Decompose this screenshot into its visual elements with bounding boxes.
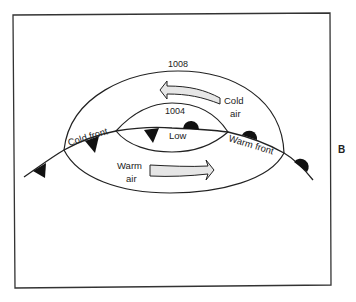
cold-front-triangle-icon xyxy=(144,128,159,143)
cold-air-label-line1: Cold xyxy=(224,95,244,106)
warm-front-semicircle-icon xyxy=(294,159,309,172)
warm-air-label-line1: Warm xyxy=(117,160,142,171)
cold-air-arrow-icon xyxy=(160,81,220,104)
isobar-1008-label: 1008 xyxy=(168,59,188,69)
warm-front-semicircle-icon xyxy=(183,121,199,130)
low-label: Low xyxy=(169,130,187,141)
frontal-depression-diagram: 1008 1004 Low Cold air Warm air Cold fro… xyxy=(0,0,356,302)
side-label-b: B xyxy=(338,144,345,155)
cold-front-triangle-icon xyxy=(33,163,46,178)
warm-air-label-line2: air xyxy=(126,173,137,184)
isobar-1004-label: 1004 xyxy=(165,106,185,116)
cold-front-label: Cold front xyxy=(66,125,109,148)
warm-air-arrow-icon xyxy=(150,160,214,180)
cold-air-label-line2: air xyxy=(230,108,241,119)
